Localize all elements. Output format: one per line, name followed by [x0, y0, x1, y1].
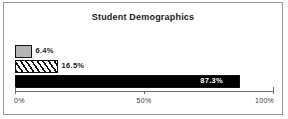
x-axis-tick: [15, 91, 16, 94]
bar-row: 6.4%: [15, 45, 273, 58]
bar-row: 16.5%: [15, 60, 273, 73]
plot-area: 6.4% 16.5% 87.3%: [15, 43, 273, 89]
bar-series-2[interactable]: [15, 60, 58, 73]
bar-value-label: 16.5%: [62, 61, 85, 70]
x-axis-tick: [144, 91, 145, 94]
x-axis-tick-label: 50%: [137, 97, 152, 104]
bar-value-label: 87.3%: [200, 76, 223, 85]
bar-value-label: 6.4%: [36, 46, 54, 55]
x-axis-tick-label: 100%: [255, 97, 274, 104]
bar-row: 87.3%: [15, 75, 273, 88]
x-axis-tick-label: 0%: [14, 97, 25, 104]
chart-frame: Student Demographics 6.4% 16.5% 87.3% 0%…: [3, 2, 283, 115]
x-axis-tick: [273, 91, 274, 94]
bar-series-1[interactable]: [15, 45, 32, 58]
chart-title: Student Demographics: [4, 12, 282, 22]
